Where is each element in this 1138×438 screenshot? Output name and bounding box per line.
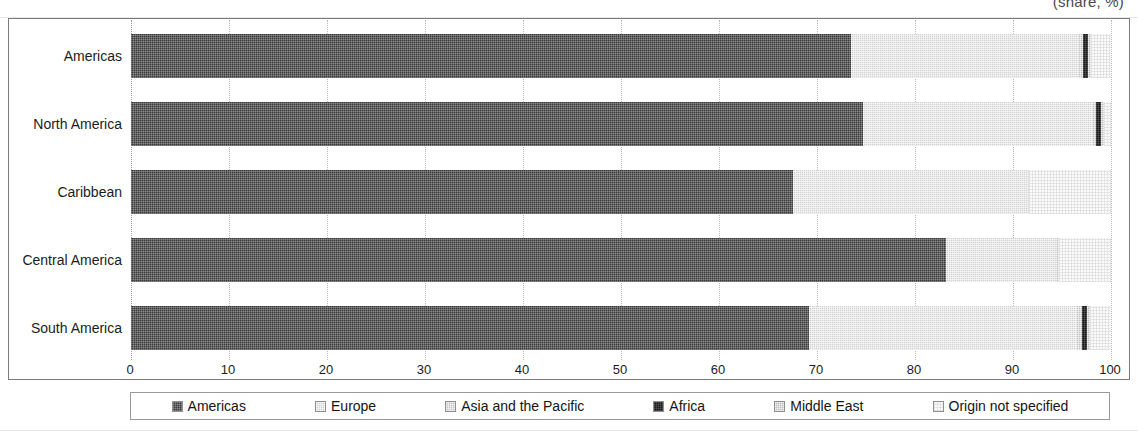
units-caption: (share, %) bbox=[1053, 0, 1124, 10]
bar-segment-unspecified[interactable] bbox=[1104, 102, 1111, 146]
bar-segment-europe[interactable] bbox=[946, 238, 1057, 282]
category-row: Americas bbox=[131, 22, 1111, 90]
legend-label: Americas bbox=[188, 398, 246, 414]
category-row: North America bbox=[131, 90, 1111, 158]
legend-label: Origin not specified bbox=[949, 398, 1069, 414]
x-tick-label-40: 40 bbox=[515, 362, 529, 377]
stacked-bar[interactable] bbox=[131, 102, 1111, 146]
legend-item-americas[interactable]: Americas bbox=[172, 398, 246, 414]
bar-segment-europe[interactable] bbox=[793, 170, 1029, 214]
category-row: Central America bbox=[131, 226, 1111, 294]
category-row: South America bbox=[131, 294, 1111, 362]
x-tick-label-50: 50 bbox=[613, 362, 627, 377]
bar-segment-unspecified[interactable] bbox=[1029, 170, 1111, 214]
category-label-north-america: North America bbox=[33, 116, 122, 132]
scan-artifact bbox=[0, 430, 1138, 431]
legend-swatch-asia-icon bbox=[445, 401, 456, 412]
bar-segment-americas[interactable] bbox=[131, 34, 851, 78]
x-tick-label-60: 60 bbox=[711, 362, 725, 377]
bar-segment-unspecified[interactable] bbox=[1059, 238, 1111, 282]
chart-legend: AmericasEuropeAsia and the PacificAfrica… bbox=[130, 392, 1110, 420]
category-label-caribbean: Caribbean bbox=[57, 184, 122, 200]
stacked-bar[interactable] bbox=[131, 238, 1111, 282]
stacked-bar-chart: (share, %) AmericasNorth AmericaCaribbea… bbox=[0, 0, 1138, 438]
legend-swatch-africa-icon bbox=[653, 401, 664, 412]
bar-segment-europe[interactable] bbox=[863, 102, 1092, 146]
x-tick-label-70: 70 bbox=[809, 362, 823, 377]
legend-label: Middle East bbox=[790, 398, 863, 414]
stacked-bar[interactable] bbox=[131, 170, 1111, 214]
category-row: Caribbean bbox=[131, 158, 1111, 226]
legend-item-asia[interactable]: Asia and the Pacific bbox=[445, 398, 584, 414]
x-tick-label-100: 100 bbox=[1099, 362, 1121, 377]
legend-label: Europe bbox=[331, 398, 376, 414]
legend-item-africa[interactable]: Africa bbox=[653, 398, 705, 414]
bar-segment-americas[interactable] bbox=[131, 306, 809, 350]
legend-label: Asia and the Pacific bbox=[461, 398, 584, 414]
plot-area: AmericasNorth AmericaCaribbeanCentral Am… bbox=[131, 20, 1111, 360]
x-tick-label-20: 20 bbox=[319, 362, 333, 377]
legend-swatch-europe-icon bbox=[315, 401, 326, 412]
legend-swatch-unspecified-icon bbox=[933, 401, 944, 412]
x-tick-label-80: 80 bbox=[907, 362, 921, 377]
bar-segment-americas[interactable] bbox=[131, 238, 946, 282]
legend-item-unspecified[interactable]: Origin not specified bbox=[933, 398, 1069, 414]
x-tick-label-30: 30 bbox=[417, 362, 431, 377]
category-label-americas: Americas bbox=[64, 48, 122, 64]
legend-swatch-americas-icon bbox=[172, 401, 183, 412]
x-tick-label-90: 90 bbox=[1005, 362, 1019, 377]
bar-segment-europe[interactable] bbox=[809, 306, 1075, 350]
bar-segment-americas[interactable] bbox=[131, 170, 793, 214]
bar-segment-unspecified[interactable] bbox=[1091, 34, 1111, 78]
stacked-bar[interactable] bbox=[131, 34, 1111, 78]
legend-item-europe[interactable]: Europe bbox=[315, 398, 376, 414]
x-axis: 0102030405060708090100 bbox=[130, 362, 1110, 388]
bar-segment-americas[interactable] bbox=[131, 102, 863, 146]
category-label-south-america: South America bbox=[31, 320, 122, 336]
x-tick-label-0: 0 bbox=[126, 362, 133, 377]
category-label-central-america: Central America bbox=[22, 252, 122, 268]
legend-label: Africa bbox=[669, 398, 705, 414]
legend-swatch-middleeast-icon bbox=[774, 401, 785, 412]
stacked-bar[interactable] bbox=[131, 306, 1111, 350]
plot-frame: AmericasNorth AmericaCaribbeanCentral Am… bbox=[8, 18, 1130, 380]
bar-segment-unspecified[interactable] bbox=[1090, 306, 1111, 350]
bar-segment-europe[interactable] bbox=[851, 34, 1078, 78]
x-tick-label-10: 10 bbox=[221, 362, 235, 377]
legend-item-middleeast[interactable]: Middle East bbox=[774, 398, 863, 414]
gridline-100 bbox=[1111, 20, 1112, 360]
